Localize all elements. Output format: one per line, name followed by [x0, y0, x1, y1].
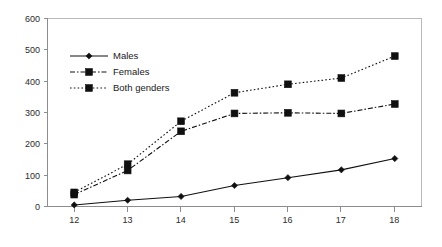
- x-tick-label: 12: [69, 215, 79, 225]
- data-point-marker: [391, 101, 398, 108]
- x-tick-label: 17: [336, 215, 346, 225]
- data-point-marker: [391, 53, 398, 60]
- legend-marker: [86, 85, 93, 92]
- data-point-marker: [124, 161, 131, 168]
- legend-label: Males: [113, 50, 139, 61]
- x-tick-label: 18: [389, 215, 399, 225]
- data-point-marker: [231, 110, 238, 117]
- y-tick-label: 300: [25, 108, 40, 118]
- x-axis-tick-labels: 12 13 14 15 16 17 18: [69, 215, 399, 225]
- data-point-marker: [338, 75, 345, 82]
- x-tick-label: 15: [229, 215, 239, 225]
- y-axis-tick-labels: 600 500 400 300 200 100 0: [25, 14, 40, 212]
- data-point-marker: [338, 110, 345, 117]
- legend-marker: [86, 69, 93, 76]
- data-point-marker: [285, 109, 292, 116]
- data-point-marker: [124, 167, 131, 174]
- y-tick-label: 200: [25, 139, 40, 149]
- legend-label: Females: [113, 66, 150, 77]
- data-point-marker: [178, 118, 185, 125]
- chart-canvas: 600 500 400 300 200 100 0 12 13 14 15 16…: [0, 0, 442, 247]
- legend-label: Both genders: [113, 82, 170, 93]
- data-point-marker: [231, 89, 238, 96]
- data-point-marker: [71, 189, 78, 196]
- y-tick-label: 100: [25, 171, 40, 181]
- x-tick-label: 14: [176, 215, 186, 225]
- data-point-marker: [178, 128, 185, 135]
- y-axis-ticks: [44, 19, 48, 207]
- data-point-marker: [285, 81, 292, 88]
- y-tick-label: 600: [25, 14, 40, 24]
- x-tick-label: 13: [122, 215, 132, 225]
- line-chart: 600 500 400 300 200 100 0 12 13 14 15 16…: [0, 0, 442, 247]
- y-tick-label: 500: [25, 45, 40, 55]
- y-tick-label: 400: [25, 77, 40, 87]
- y-tick-label: 0: [35, 202, 40, 212]
- x-axis-ticks: [74, 207, 394, 212]
- x-tick-label: 16: [282, 215, 292, 225]
